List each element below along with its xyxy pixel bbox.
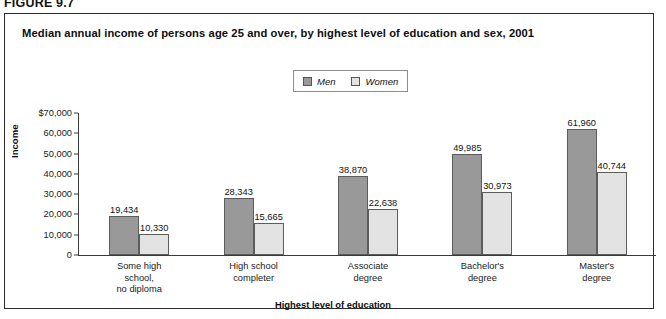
y-axis-tick-label: $70,000 xyxy=(38,108,72,118)
bar-men: 49,985 xyxy=(452,154,482,255)
legend-item-men: Men xyxy=(303,76,335,87)
legend-swatch-men xyxy=(303,77,312,86)
bar-group: 49,98530,973 xyxy=(452,113,512,255)
bar-value-label: 22,638 xyxy=(369,198,397,208)
bar-group: 28,34315,665 xyxy=(224,113,284,255)
legend-label-men: Men xyxy=(317,76,335,87)
bar-value-label: 61,960 xyxy=(568,118,596,128)
x-axis-title: Highest level of education xyxy=(0,299,666,310)
bar-men: 19,434 xyxy=(109,216,139,255)
bar-women: 40,744 xyxy=(597,172,627,255)
x-axis-category-label: High school completer xyxy=(196,261,310,284)
bar-men: 28,343 xyxy=(224,198,254,255)
bar-women: 30,973 xyxy=(482,192,512,255)
y-axis-tick-labels: 010,00020,00030,00040,00050,00060,000$70… xyxy=(0,0,72,319)
bar-value-label: 38,870 xyxy=(339,165,367,175)
y-axis-tick-label: 50,000 xyxy=(44,149,72,159)
legend-item-women: Women xyxy=(351,76,398,87)
bar-value-label: 30,973 xyxy=(483,181,511,191)
bar-group: 38,87022,638 xyxy=(338,113,398,255)
y-axis-tick-label: 60,000 xyxy=(44,128,72,138)
legend-swatch-women xyxy=(351,77,360,86)
x-axis-category-label: Associate degree xyxy=(311,261,425,284)
bar-group: 19,43410,330 xyxy=(109,113,169,255)
bar-value-label: 40,744 xyxy=(598,161,626,171)
x-axis-line xyxy=(78,255,656,256)
bar-value-label: 49,985 xyxy=(453,143,481,153)
y-axis-tick-label: 30,000 xyxy=(44,189,72,199)
bar-value-label: 10,330 xyxy=(140,223,168,233)
bar-women: 22,638 xyxy=(368,209,398,255)
bar-group: 61,96040,744 xyxy=(567,113,627,255)
bar-women: 15,665 xyxy=(254,223,284,255)
x-axis-category-label: Bachelor's degree xyxy=(425,261,539,284)
bar-value-label: 15,665 xyxy=(254,212,282,222)
plot-area: 19,43410,33028,34315,66538,87022,63849,9… xyxy=(78,113,650,255)
y-axis-tick-mark xyxy=(74,214,78,215)
y-axis-tick-mark xyxy=(74,234,78,235)
bar-men: 61,960 xyxy=(567,129,597,255)
bar-value-label: 28,343 xyxy=(224,187,252,197)
chart-title: Median annual income of persons age 25 a… xyxy=(22,27,534,39)
y-axis-tick-mark xyxy=(74,173,78,174)
figure-container: FIGURE 9.7 Median annual income of perso… xyxy=(0,0,666,319)
bar-women: 10,330 xyxy=(139,234,169,255)
legend-label-women: Women xyxy=(365,76,398,87)
y-axis-tick-label: 40,000 xyxy=(44,169,72,179)
bar-value-label: 19,434 xyxy=(110,205,138,215)
y-axis-tick-label: 20,000 xyxy=(44,209,72,219)
y-axis-tick-mark xyxy=(74,194,78,195)
x-axis-category-label: Master's degree xyxy=(540,261,654,284)
y-axis-tick-mark xyxy=(74,113,78,114)
y-axis-tick-label: 0 xyxy=(67,250,72,260)
y-axis-tick-label: 10,000 xyxy=(44,230,72,240)
y-axis-tick-mark xyxy=(74,153,78,154)
y-axis-tick-mark xyxy=(74,133,78,134)
y-axis-tick-mark xyxy=(74,255,78,256)
bar-men: 38,870 xyxy=(338,176,368,255)
chart-legend: Men Women xyxy=(293,70,408,92)
x-axis-category-label: Some high school, no diploma xyxy=(82,261,196,296)
